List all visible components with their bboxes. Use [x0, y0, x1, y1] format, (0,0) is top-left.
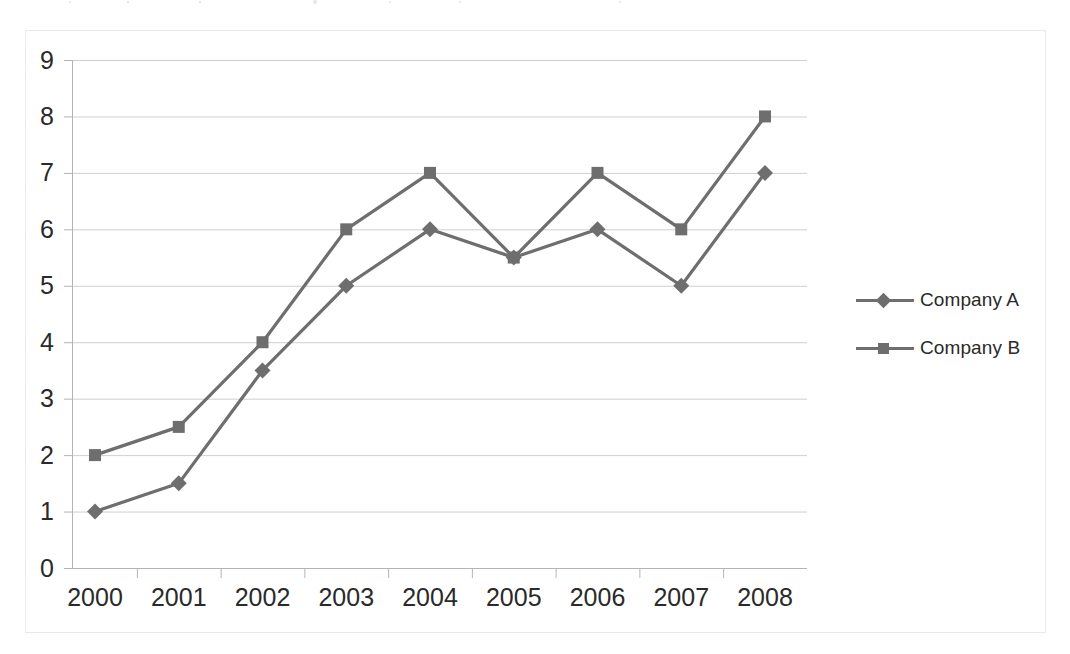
y-axis-tick-label: 9	[40, 46, 54, 74]
x-axis-tick-label: 2007	[653, 583, 709, 611]
x-axis-tick-label: 2001	[151, 583, 207, 611]
legend-item-company-a[interactable]: Company A	[856, 287, 1046, 313]
legend-label-company-a: Company A	[920, 289, 1019, 311]
x-axis-tick-label: 2000	[67, 583, 123, 611]
y-axis-tick-label: 0	[40, 554, 54, 582]
x-axis-tick-label: 2003	[318, 583, 374, 611]
data-point-marker	[424, 167, 436, 179]
chart-legend: Company A Company B	[856, 287, 1046, 383]
legend-label-company-b: Company B	[920, 337, 1020, 359]
data-point-marker	[173, 421, 185, 433]
y-axis-tick-label: 8	[40, 102, 54, 130]
data-point-marker	[87, 504, 103, 520]
y-axis-tick-label: 7	[40, 158, 54, 186]
data-point-marker	[592, 167, 604, 179]
legend-item-company-b[interactable]: Company B	[856, 335, 1046, 361]
data-point-marker	[257, 336, 269, 348]
x-axis-tick-label: 2005	[486, 583, 542, 611]
x-axis-tick-label: 2002	[235, 583, 291, 611]
y-axis-tick-label: 5	[40, 271, 54, 299]
y-axis-tick-label: 1	[40, 497, 54, 525]
y-axis-tick-label: 6	[40, 215, 54, 243]
x-axis-tick-label: 2008	[737, 583, 793, 611]
y-axis-tick-label: 4	[40, 328, 54, 356]
data-point-marker	[89, 449, 101, 461]
legend-marker-diamond-icon	[856, 291, 914, 309]
x-axis-tick-label: 2004	[402, 583, 458, 611]
data-point-marker	[340, 223, 352, 235]
chart-figure: 0123456789200020012002200320042005200620…	[0, 0, 1070, 654]
legend-marker-square-icon	[856, 339, 914, 357]
x-axis-tick-label: 2006	[570, 583, 626, 611]
y-axis-tick-label: 3	[40, 384, 54, 412]
data-point-marker	[759, 110, 771, 122]
y-axis-tick-label: 2	[40, 441, 54, 469]
data-point-marker	[675, 223, 687, 235]
data-point-marker	[508, 252, 520, 264]
